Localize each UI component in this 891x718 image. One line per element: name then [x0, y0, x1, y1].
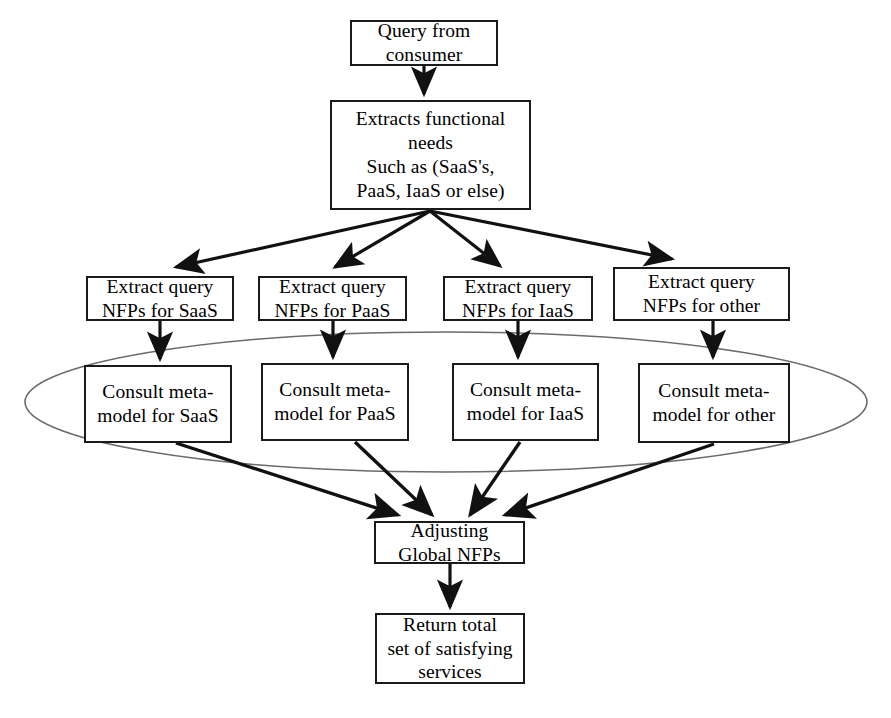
node-extract-functional[interactable]: Extracts functional needs Such as (SaaS'…: [330, 100, 531, 210]
node-consult-iaas[interactable]: Consult meta- model for IaaS: [452, 363, 599, 441]
node-consult-saas-label: Consult meta- model for SaaS: [93, 380, 223, 428]
node-consult-other[interactable]: Consult meta- model for other: [638, 363, 790, 443]
node-extract-paas-label: Extract query NFPs for PaaS: [270, 275, 394, 323]
node-return-total[interactable]: Return total set of satisfying services: [375, 613, 525, 684]
node-extract-paas[interactable]: Extract query NFPs for PaaS: [258, 276, 407, 321]
node-extract-functional-label: Extracts functional needs Such as (SaaS'…: [352, 107, 510, 202]
node-consult-saas[interactable]: Consult meta- model for SaaS: [84, 365, 232, 443]
node-query-label: Query from consumer: [374, 19, 475, 67]
node-extract-saas-label: Extract query NFPs for SaaS: [98, 275, 222, 323]
node-extract-iaas-label: Extract query NFPs for IaaS: [458, 275, 578, 323]
node-consult-paas-label: Consult meta- model for PaaS: [270, 378, 400, 426]
node-layer: Query from consumer Extracts functional …: [0, 0, 891, 718]
node-adjusting-label: Adjusting Global NFPs: [394, 519, 504, 567]
node-extract-other[interactable]: Extract query NFPs for other: [613, 267, 790, 321]
node-query[interactable]: Query from consumer: [350, 20, 498, 66]
node-adjusting[interactable]: Adjusting Global NFPs: [374, 521, 525, 564]
node-consult-other-label: Consult meta- model for other: [649, 379, 780, 427]
node-consult-iaas-label: Consult meta- model for IaaS: [463, 378, 588, 426]
node-extract-other-label: Extract query NFPs for other: [639, 270, 764, 318]
flowchart-canvas: Query from consumer Extracts functional …: [0, 0, 891, 718]
node-consult-paas[interactable]: Consult meta- model for PaaS: [261, 363, 409, 441]
node-extract-saas[interactable]: Extract query NFPs for SaaS: [86, 276, 234, 321]
node-extract-iaas[interactable]: Extract query NFPs for IaaS: [443, 276, 593, 321]
node-return-total-label: Return total set of satisfying services: [383, 613, 516, 684]
